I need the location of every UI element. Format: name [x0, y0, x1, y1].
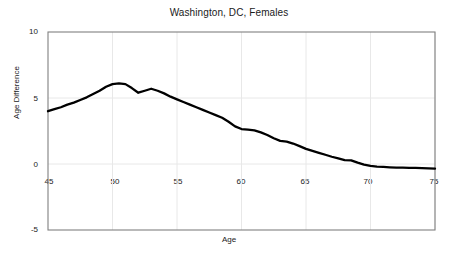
chart-figure: Washington, DC, Females Age Difference A…: [0, 0, 458, 265]
plot-svg: [0, 0, 458, 265]
gridlines: [48, 32, 435, 230]
